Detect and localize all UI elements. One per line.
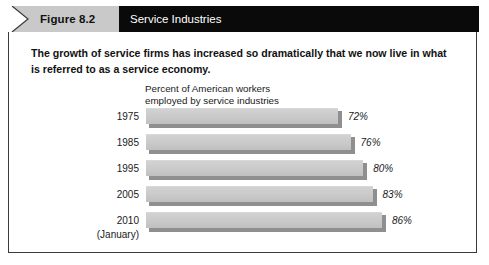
bar-category-sublabel: (January) — [39, 229, 139, 240]
bar-row: 2010(January)86% — [9, 212, 476, 236]
bar-category-year: 1975 — [117, 111, 139, 122]
chart-title: Percent of American workers employed by … — [145, 83, 279, 106]
bar-value-label: 83% — [383, 187, 403, 202]
bar-category-label: 1985 — [39, 134, 139, 151]
bar-face — [146, 186, 373, 202]
bar-shadow-bottom — [149, 228, 385, 232]
bar-shadow-side — [363, 163, 367, 180]
bar-category-year: 2005 — [117, 189, 139, 200]
bar-face — [146, 108, 338, 124]
bar-shadow-bottom — [149, 150, 354, 154]
figure-number-label: Figure 8.2 — [40, 6, 95, 32]
bar-row: 197572% — [9, 108, 476, 132]
bar-category-label: 1975 — [39, 108, 139, 125]
bar — [146, 134, 355, 155]
figure-container: Figure 8.2 Service Industries The growth… — [0, 0, 489, 265]
bar — [146, 212, 386, 233]
bar-category-label: 2005 — [39, 186, 139, 203]
bar — [146, 108, 342, 129]
bar-face — [146, 134, 351, 150]
figure-title: Service Industries — [130, 6, 221, 32]
bar-chart: 197572%198576%199580%200583%2010(January… — [9, 108, 476, 248]
bar-shadow-bottom — [149, 124, 341, 128]
bar-category-label: 2010(January) — [39, 212, 139, 240]
chevron-right-icon — [8, 6, 34, 32]
bar — [146, 160, 367, 181]
bar-face — [146, 212, 382, 228]
bar-value-label: 76% — [361, 135, 381, 150]
bar-row: 198576% — [9, 134, 476, 158]
bar-category-year: 2010 — [117, 215, 139, 226]
bar-row: 199580% — [9, 160, 476, 184]
bar-row: 200583% — [9, 186, 476, 210]
bar-shadow-bottom — [149, 202, 376, 206]
bar-shadow-side — [338, 111, 342, 128]
lede-paragraph: The growth of service firms has increase… — [31, 46, 453, 77]
figure-header: Figure 8.2 Service Industries — [8, 6, 479, 32]
bar-value-label: 80% — [373, 161, 393, 176]
bar-shadow-side — [351, 137, 355, 154]
figure-body-panel: The growth of service firms has increase… — [8, 32, 477, 253]
bar-value-label: 72% — [348, 109, 368, 124]
bar-value-label: 86% — [392, 213, 412, 228]
bar-shadow-side — [382, 215, 386, 232]
bar-shadow-side — [373, 189, 377, 206]
bar — [146, 186, 377, 207]
bar-category-year: 1985 — [117, 137, 139, 148]
bar-face — [146, 160, 363, 176]
bar-category-label: 1995 — [39, 160, 139, 177]
bar-shadow-bottom — [149, 176, 366, 180]
bar-category-year: 1995 — [117, 163, 139, 174]
